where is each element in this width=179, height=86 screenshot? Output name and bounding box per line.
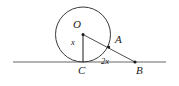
label-point-O: O (73, 19, 81, 30)
geometry-figure: O A C B x 2x (0, 0, 179, 86)
label-point-B: B (136, 65, 143, 76)
point-A-dot (107, 46, 110, 49)
label-point-C: C (78, 65, 85, 76)
label-measure-segment: 2x (101, 57, 109, 66)
point-O-dot (82, 33, 85, 36)
label-measure-radius: x (71, 38, 75, 47)
geometry-canvas (0, 0, 179, 86)
label-point-A: A (115, 34, 122, 45)
